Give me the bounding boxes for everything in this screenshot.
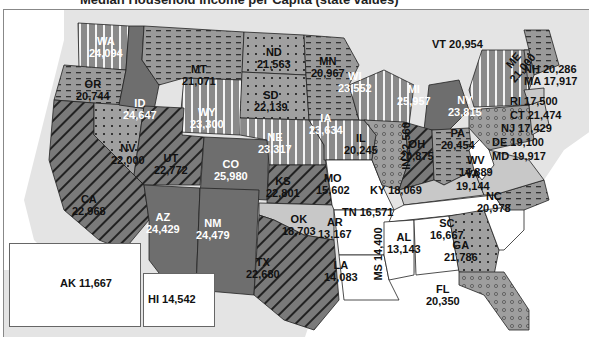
state-label-ne: NE23,317: [258, 131, 292, 155]
state-label-la: LA14,083: [324, 259, 358, 283]
state-label-wa: WA24,094: [89, 35, 123, 59]
state-label-pa: PA20,454: [441, 127, 475, 151]
state-label-mi: MI25,957: [397, 83, 431, 107]
state-label-ga: GA21,786: [444, 239, 478, 263]
state-label-nj: NJ 17,429: [501, 122, 552, 134]
state-label-ny: NY23,815: [448, 94, 482, 118]
state-label-id: ID24,647: [123, 97, 157, 121]
hawaii-inset: HI 14,542: [143, 273, 215, 327]
state-label-ca: CA22,968: [72, 193, 106, 217]
state-label-ar: AR13,167: [318, 216, 352, 240]
state-label-fl: FL20,350: [426, 283, 460, 307]
state-label-vt: VT 20,954: [432, 38, 483, 50]
state-label-ok: OK18,703: [282, 213, 316, 237]
state-label-tn: TN 16,571: [342, 206, 393, 218]
state-label-ia: IA23,634: [309, 112, 343, 136]
state-label-mo: MO15,602: [316, 172, 350, 196]
state-label-nm: NM24,479: [196, 217, 230, 241]
state-label-oh: OH20,875: [400, 138, 434, 162]
state-label-or: OR20,744: [76, 78, 110, 102]
state-label-ut: UT22,772: [154, 152, 188, 176]
state-label-az: AZ24,429: [146, 211, 180, 235]
state-label-tx: TX22,680: [246, 256, 280, 280]
state-label-sd: SD22,139: [254, 89, 288, 113]
state-label-mt: MT21,071: [182, 63, 216, 87]
state-label-nh: NH 20,286: [524, 63, 577, 75]
state-label-ms: MS 14,400: [372, 227, 384, 280]
state-label-il: IL20,245: [344, 132, 378, 156]
state-label-co: CO25,980: [214, 158, 248, 182]
state-label-wi: WI23,552: [338, 70, 372, 94]
map-title: Median Household Income per Capita (stat…: [80, 0, 399, 7]
state-label-md: MD 19,917: [492, 150, 546, 162]
state-label-wy: WY23,300: [190, 106, 224, 130]
state-label-nd: ND21,563: [257, 46, 291, 70]
alaska-inset: AK 11,667: [9, 243, 141, 327]
state-label-hi: HI 14,542: [148, 293, 196, 305]
state-label-de: DE 19,100: [492, 136, 544, 148]
state-label-wv: WV14,889: [459, 154, 493, 178]
state-label-nc: NC20,978: [477, 190, 511, 214]
map-title-strip: Median Household Income per Capita (stat…: [0, 0, 591, 9]
state-label-nv: NV22,000: [111, 142, 145, 166]
state-label-al: AL13,143: [387, 231, 421, 255]
state-label-ma: MA 17,917: [524, 75, 577, 87]
us-map: WA24,094 OR20,744 CA22,968 NV22,000 ID24…: [3, 9, 589, 337]
state-label-ri: RI 17,500: [510, 95, 558, 107]
state-label-ak: AK 11,667: [60, 277, 112, 289]
state-label-ct: CT 21,474: [510, 109, 561, 121]
state-label-sc: SC16,667: [430, 217, 464, 241]
state-label-ky: KY 18,069: [370, 184, 422, 196]
state-label-ks: KS22,801: [266, 175, 300, 199]
